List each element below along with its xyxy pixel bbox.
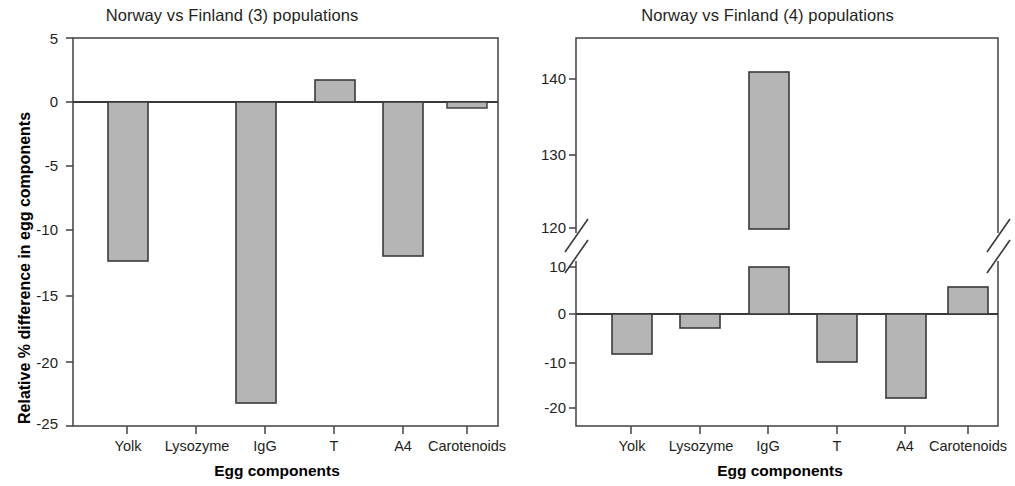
y-ticks (66, 38, 73, 426)
bar-carotenoids (948, 287, 988, 314)
x-category-label: T (304, 438, 364, 454)
bar-a4 (886, 314, 926, 398)
chart-panel-left: Norway vs Finland (3) populations Relati… (0, 0, 500, 486)
x-category-label: T (807, 438, 867, 454)
bar-lysozyme (680, 314, 720, 328)
bar-igg-lower (749, 267, 789, 314)
x-category-label: Lysozyme (147, 438, 247, 454)
bar-a4 (383, 102, 423, 256)
bar-t (817, 314, 857, 362)
bar-yolk (612, 314, 652, 354)
x-axis-title-left: Egg components (197, 462, 357, 480)
x-ticks (631, 426, 968, 434)
bar-t (315, 80, 355, 102)
x-axis-title-right: Egg components (700, 462, 860, 480)
x-category-label: IgG (736, 438, 800, 454)
bar-igg-upper (749, 72, 789, 229)
bar-yolk (108, 102, 148, 261)
x-category-label: IgG (233, 438, 297, 454)
x-ticks (127, 426, 467, 434)
bar-carotenoids (447, 102, 487, 108)
x-category-label: Carotenoids (913, 438, 1015, 454)
bar-igg (236, 102, 276, 403)
chart-panel-right: Norway vs Finland (4) populations 140 13… (500, 0, 1003, 486)
plot-area-right (500, 0, 1003, 486)
plot-area-left (0, 0, 500, 486)
